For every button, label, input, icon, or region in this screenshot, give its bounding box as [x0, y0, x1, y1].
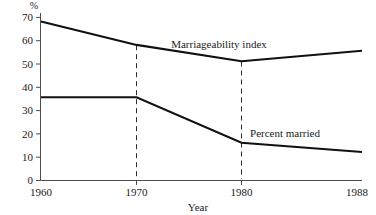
x-axis-title: Year [188, 201, 209, 213]
y-tick-label-30: 30 [22, 104, 34, 116]
x-tick-label-1980: 1980 [231, 186, 254, 198]
x-tick-label-1970: 1970 [126, 186, 149, 198]
x-tick-label-1960: 1960 [30, 186, 53, 198]
chart-background [0, 0, 376, 215]
series-annotation-marriageability-index: Marriageability index [171, 38, 267, 50]
y-tick-label-0: 0 [28, 174, 34, 186]
y-tick-label-20: 20 [22, 128, 34, 140]
x-tick-label-1988: 1988 [346, 186, 369, 198]
y-tick-label-40: 40 [22, 81, 34, 93]
y-tick-label-70: 70 [22, 11, 34, 23]
y-tick-label-50: 50 [22, 58, 34, 70]
y-axis-unit-label: % [30, 0, 38, 11]
chart-screenshot: 0 10 20 30 40 50 60 70 % 1960 1970 1980 … [0, 0, 376, 215]
y-tick-label-10: 10 [22, 151, 34, 163]
series-annotation-percent-married: Percent married [250, 127, 320, 139]
y-tick-label-60: 60 [22, 34, 34, 46]
line-chart: 0 10 20 30 40 50 60 70 % 1960 1970 1980 … [0, 0, 376, 215]
